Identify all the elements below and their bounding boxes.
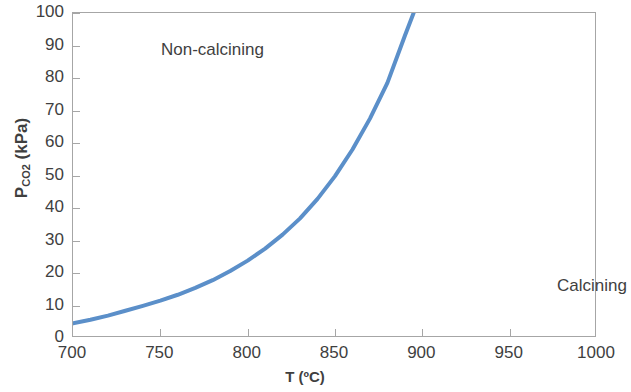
y-tick-label: 50 <box>0 166 64 183</box>
x-tick-label: 750 <box>124 344 194 361</box>
x-tick-mark <box>335 329 336 336</box>
y-axis-title-base: P <box>12 187 31 198</box>
x-axis-title: T (ºC) <box>0 368 610 385</box>
x-tick-mark <box>422 329 423 336</box>
y-tick-mark <box>73 306 80 307</box>
y-tick-label: 40 <box>0 198 64 215</box>
y-axis-title-subscript: CO2 <box>20 164 32 187</box>
y-tick-label: 60 <box>0 133 64 150</box>
annotation-calcining: Calcining <box>557 277 627 295</box>
y-tick-label: 70 <box>0 101 64 118</box>
y-tick-label: 80 <box>0 68 64 85</box>
x-tick-label: 700 <box>37 344 107 361</box>
y-tick-mark <box>73 273 80 274</box>
y-tick-label: 30 <box>0 231 64 248</box>
y-tick-mark <box>73 13 80 14</box>
y-tick-mark <box>73 143 80 144</box>
y-tick-label: 0 <box>0 328 64 345</box>
y-tick-mark <box>73 111 80 112</box>
data-curve-svg <box>73 13 597 338</box>
x-tick-mark <box>248 329 249 336</box>
x-tick-label: 850 <box>299 344 369 361</box>
y-tick-label: 20 <box>0 263 64 280</box>
y-axis-title-unit: (kPa) <box>12 118 31 164</box>
annotation-non-calcining: Non-calcining <box>161 41 264 59</box>
y-tick-label: 10 <box>0 296 64 313</box>
plot-area: Non-calcining Calcining <box>72 12 596 337</box>
y-tick-mark <box>73 208 80 209</box>
y-axis-title: PCO2 (kPa) <box>12 78 32 238</box>
y-tick-label: 100 <box>0 3 64 20</box>
x-tick-label: 800 <box>212 344 282 361</box>
x-tick-label: 1000 <box>561 344 631 361</box>
x-tick-label: 950 <box>474 344 544 361</box>
x-tick-label: 900 <box>386 344 456 361</box>
x-tick-mark <box>160 329 161 336</box>
y-tick-mark <box>73 176 80 177</box>
co2-pressure-curve <box>73 13 414 323</box>
y-tick-mark <box>73 78 80 79</box>
x-tick-mark <box>510 329 511 336</box>
y-tick-mark <box>73 46 80 47</box>
y-tick-label: 90 <box>0 36 64 53</box>
y-tick-mark <box>73 241 80 242</box>
